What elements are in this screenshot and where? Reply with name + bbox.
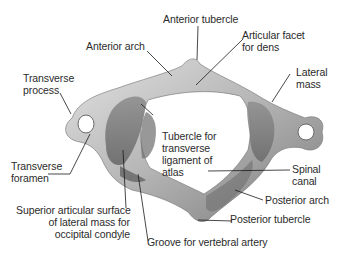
- label-groove-vertebral-artery: Groove for vertebral artery: [147, 236, 267, 248]
- label-superior-articular-surface: Superior articular surface of lateral ma…: [16, 204, 130, 240]
- left-transverse-foramen: [78, 115, 94, 133]
- label-anterior-tubercle: Anterior tubercle: [163, 13, 238, 25]
- label-anterior-arch: Anterior arch: [86, 40, 145, 52]
- atlas-vertebra-figure: Anterior tubercle Anterior arch Articula…: [0, 0, 339, 258]
- label-lateral-mass: Lateral mass: [296, 66, 327, 90]
- label-posterior-arch: Posterior arch: [265, 194, 329, 206]
- label-spinal-canal: Spinal canal: [292, 163, 321, 187]
- label-transverse-foramen: Transverse foramen: [11, 160, 62, 184]
- label-tubercle-transverse-ligament: Tubercle for transverse ligament of atla…: [162, 130, 216, 178]
- label-articular-facet-for-dens: Articular facet for dens: [242, 29, 305, 53]
- label-posterior-tubercle: Posterior tubercle: [230, 213, 311, 225]
- right-transverse-foramen: [298, 124, 314, 140]
- label-transverse-process: Transverse process: [23, 72, 74, 96]
